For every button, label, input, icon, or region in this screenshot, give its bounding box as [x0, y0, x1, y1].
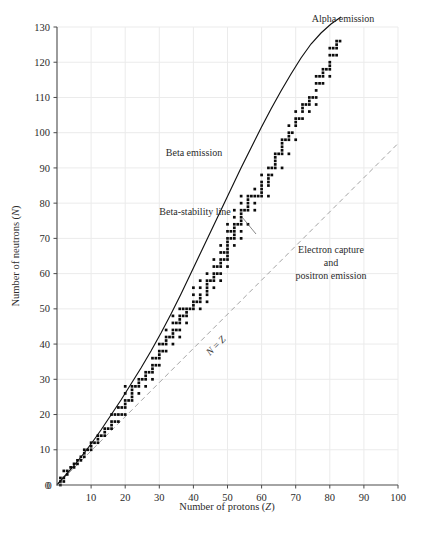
data-point	[73, 463, 76, 466]
data-point	[117, 413, 120, 416]
data-point	[199, 307, 202, 310]
data-point	[131, 389, 134, 392]
data-point	[124, 392, 127, 395]
data-point	[103, 431, 106, 434]
data-point	[253, 188, 256, 191]
data-point	[322, 82, 325, 85]
y-axis-title-prefix: Number of neutrons (	[10, 215, 22, 306]
data-point	[253, 209, 256, 212]
data-point	[267, 195, 270, 198]
data-point	[90, 448, 93, 451]
y-tick-label: 110	[35, 92, 50, 103]
data-point	[247, 209, 250, 212]
data-point	[294, 138, 297, 141]
data-point	[151, 364, 154, 367]
data-point	[281, 167, 284, 170]
data-point	[233, 230, 236, 233]
data-point	[172, 329, 175, 332]
data-point	[240, 212, 243, 215]
data-point	[260, 174, 263, 177]
data-point	[131, 396, 134, 399]
data-point	[226, 258, 229, 261]
data-point	[110, 427, 113, 430]
y-tick-label: 0	[45, 480, 50, 491]
data-point	[86, 448, 89, 451]
data-point	[144, 378, 147, 381]
data-point	[322, 71, 325, 74]
data-point	[158, 357, 161, 360]
data-point	[288, 131, 291, 134]
data-point	[137, 378, 140, 381]
chart-canvas: 0102030405060708090100 01020304050607080…	[0, 0, 431, 543]
data-point	[328, 64, 331, 67]
svg-text:Number of neutrons (N): Number of neutrons (N)	[10, 205, 22, 307]
data-point	[206, 279, 209, 282]
data-point	[76, 459, 79, 462]
data-point	[189, 307, 192, 310]
data-point	[301, 110, 304, 113]
data-point	[206, 286, 209, 289]
data-point	[281, 142, 284, 145]
data-point	[281, 145, 284, 148]
y-tick-label: 120	[34, 57, 50, 68]
data-point	[226, 255, 229, 258]
data-point	[165, 329, 168, 332]
data-point	[206, 293, 209, 296]
data-point	[131, 385, 134, 388]
data-point	[274, 163, 277, 166]
data-point	[73, 466, 76, 469]
data-point	[206, 272, 209, 275]
data-point	[151, 367, 154, 370]
data-point	[124, 413, 127, 416]
data-point	[260, 181, 263, 184]
data-point	[62, 480, 65, 483]
data-point	[192, 286, 195, 289]
data-point	[213, 258, 216, 261]
data-point	[151, 357, 154, 360]
data-point	[172, 322, 175, 325]
data-point	[185, 311, 188, 314]
beta-stability-line-label: Beta-stability line	[159, 206, 231, 217]
data-point	[114, 420, 117, 423]
data-point	[226, 244, 229, 247]
data-point	[219, 272, 222, 275]
x-tick-label: 30	[154, 492, 165, 503]
data-point	[223, 251, 226, 254]
data-point	[315, 96, 318, 99]
data-point	[90, 445, 93, 448]
data-point	[69, 466, 72, 469]
data-point	[90, 441, 93, 444]
data-point	[178, 322, 181, 325]
data-point	[230, 230, 233, 233]
data-point	[226, 237, 229, 240]
y-tick-label: 80	[40, 198, 51, 209]
data-point	[226, 223, 229, 226]
y-axis-title-suffix: )	[10, 205, 22, 209]
data-point	[247, 202, 250, 205]
x-axis-title: Number of protons (Z)	[179, 501, 275, 513]
data-point	[294, 110, 297, 113]
data-point	[148, 371, 151, 374]
data-point	[335, 43, 338, 46]
data-point	[315, 75, 318, 78]
data-point	[83, 455, 86, 458]
data-point	[250, 195, 253, 198]
data-point	[308, 110, 311, 113]
data-point	[322, 75, 325, 78]
data-point	[291, 131, 294, 134]
y-axis-title: Number of neutrons (N)	[10, 205, 22, 307]
data-point	[281, 152, 284, 155]
data-point	[158, 353, 161, 356]
electron-capture-and-label: and	[324, 257, 338, 268]
electron-capture-label: Electron capture	[298, 244, 364, 255]
data-point	[270, 174, 273, 177]
y-tick-label: 100	[34, 127, 50, 138]
data-point	[226, 248, 229, 251]
data-point	[127, 399, 130, 402]
data-point	[277, 152, 280, 155]
data-point	[267, 174, 270, 177]
data-point	[178, 315, 181, 318]
data-point	[76, 463, 79, 466]
data-point	[308, 100, 311, 103]
data-point	[233, 244, 236, 247]
